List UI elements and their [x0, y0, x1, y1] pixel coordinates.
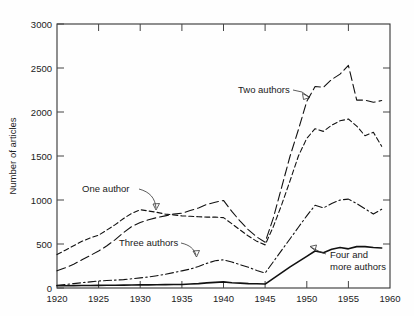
x-tick-labels: 1920 1925 1930 1935 1940 1945 1950 1955 …: [46, 293, 400, 304]
x-tick-label: 1920: [46, 293, 67, 304]
annotation-four-and: Four and: [330, 249, 368, 260]
x-tick-label: 1940: [213, 293, 234, 304]
annotation-three-authors: Three authors: [119, 237, 178, 248]
x-tick-label: 1960: [379, 293, 400, 304]
y-tick-label: 2000: [31, 107, 52, 118]
annotation-more-authors: more authors: [330, 261, 386, 272]
annotation-leaders: [139, 90, 326, 257]
x-tick-label: 1925: [88, 293, 109, 304]
y-axis-title: Number of articles: [7, 117, 18, 194]
x-tick-label: 1950: [296, 293, 317, 304]
y-axis-ticks-right: [383, 68, 390, 244]
annotation-one-author: One author: [82, 183, 130, 194]
series-annotations: One author Two authors Three authors Fou…: [82, 84, 386, 272]
y-tick-label: 1000: [31, 195, 52, 206]
x-tick-label: 1955: [338, 293, 359, 304]
x-tick-label: 1930: [130, 293, 151, 304]
x-tick-label: 1945: [255, 293, 276, 304]
y-tick-label: 3000: [31, 19, 52, 30]
y-tick-label: 0: [47, 283, 52, 294]
four-authors-arrowhead: [310, 245, 317, 251]
y-axis-ticks: [57, 24, 64, 288]
x-tick-label: 1935: [171, 293, 192, 304]
y-tick-labels: 3000 2500 2000 1500 1000 500 0: [31, 19, 52, 294]
y-tick-label: 2500: [31, 63, 52, 74]
series-line-two-authors: [57, 65, 382, 270]
x-axis-ticks-top: [99, 24, 349, 31]
three-authors-leader: [181, 243, 196, 255]
line-chart: 3000 2500 2000 1500 1000 500 0 1920 1925…: [0, 0, 414, 316]
y-tick-label: 500: [36, 239, 52, 250]
series-line-three-authors: [57, 199, 382, 285]
figure-container: 3000 2500 2000 1500 1000 500 0 1920 1925…: [0, 0, 414, 316]
annotation-two-authors: Two authors: [238, 84, 290, 95]
y-tick-label: 1500: [31, 151, 52, 162]
